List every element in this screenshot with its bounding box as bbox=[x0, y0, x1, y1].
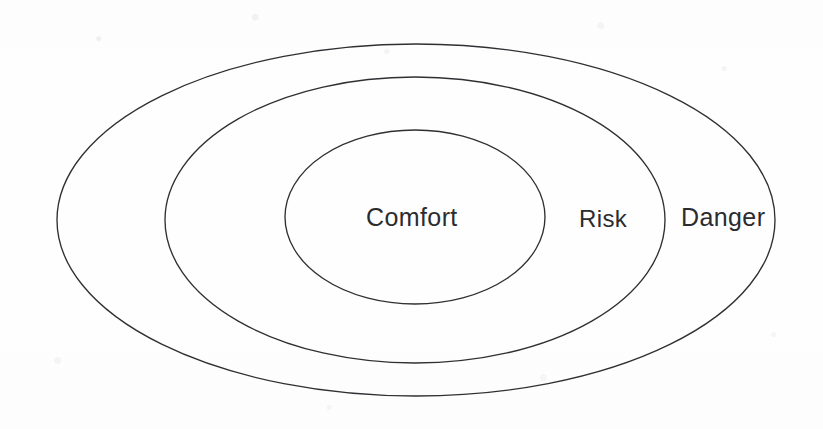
danger-zone-label: Danger bbox=[681, 205, 765, 230]
comfort-zone-label: Comfort bbox=[366, 205, 458, 230]
risk-zone-label: Risk bbox=[579, 207, 627, 231]
diagram-canvas: Comfort Risk Danger bbox=[0, 0, 823, 429]
